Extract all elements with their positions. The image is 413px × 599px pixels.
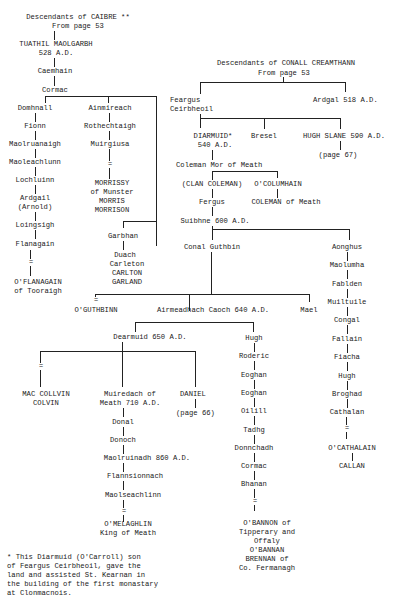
connector	[200, 82, 201, 94]
connector	[212, 171, 213, 180]
donal: Donal	[112, 418, 134, 427]
broghad: Broghad	[332, 390, 362, 399]
maolseachlinn: Maolseachlinn	[105, 491, 161, 500]
connector	[254, 398, 255, 407]
generations-omitted-marker: =	[29, 259, 33, 266]
hugh-aonghus-line: Hugh	[338, 372, 355, 381]
diarmuid: DIARMUID*	[194, 132, 233, 141]
maoleachlunn: Maoleachlunn	[9, 158, 61, 167]
connector	[264, 118, 265, 129]
tuathil-maolgarbh: TUATHIL MAOLGARBH	[19, 40, 92, 49]
connector	[35, 212, 36, 221]
eoghan-2: Eoghan	[241, 389, 267, 398]
connector	[35, 230, 36, 239]
hugh: Hugh	[245, 334, 262, 343]
connector	[347, 325, 348, 334]
muiredach-meath: Meath 710 A.D.	[100, 399, 160, 408]
obannon: O'BANNON of	[243, 519, 290, 528]
connector	[347, 362, 348, 371]
connector	[195, 399, 196, 408]
co-fermanagh: Co. Fermanagh	[239, 564, 295, 573]
connector	[349, 229, 350, 240]
connector	[254, 343, 255, 352]
brennan: BRENNAN of	[245, 555, 288, 564]
page-67-reference: (page 67)	[319, 151, 358, 160]
connector	[123, 221, 124, 228]
connector	[109, 131, 110, 140]
footnote-line-1: * This Diarmuid (O'Carroll) son	[7, 553, 141, 562]
connector	[309, 294, 310, 302]
fiacha: Fiacha	[334, 353, 360, 362]
maolruinadh: Maolruinadh 860 A.D.	[104, 454, 190, 463]
aonghus: Aonghus	[332, 243, 362, 252]
feargus: Feargus	[170, 96, 200, 105]
ocolumhain: O'COLUMHAIN	[254, 180, 301, 189]
roderic: Roderic	[239, 352, 269, 361]
generations-omitted-marker: =	[108, 161, 112, 168]
mac-collvin: MAC COLLVIN	[22, 390, 69, 399]
conall-header: Descendants of CONALL CREAMTHANN	[217, 59, 355, 68]
conal-guthbin: Conal Guthbin	[184, 243, 240, 252]
tuathil-date: 528 A.D.	[39, 49, 74, 58]
connector	[254, 471, 255, 480]
garbhan: Garbhan	[108, 232, 138, 241]
connector	[254, 435, 255, 444]
oilill: Oilill	[241, 407, 267, 416]
eoghan-1: Eoghan	[241, 371, 267, 380]
connector	[54, 58, 55, 67]
morrissy: MORRISSY	[95, 179, 130, 188]
connector	[254, 416, 255, 425]
connector	[254, 453, 255, 462]
oguthbinn: O'GUTHBINN	[74, 306, 117, 315]
morrissy-of-munster: of Munster	[90, 188, 133, 197]
connector	[195, 351, 196, 387]
feargus-ceirbheoil: Ceirbheoil	[170, 105, 213, 114]
connector	[123, 241, 124, 250]
generations-omitted-marker: =	[253, 498, 257, 505]
donoch: Donoch	[110, 436, 136, 445]
ocathalain: O'CATHALAIN	[328, 444, 375, 453]
maolruanaigh: Maolruanaigh	[9, 140, 61, 149]
carleton: Carleton	[110, 260, 145, 269]
coleman-mor: Coleman Mor of Meath	[176, 161, 262, 170]
flannsionnach: Flannsionnach	[107, 472, 163, 481]
connector	[123, 408, 124, 417]
lochluinn: Lochluinn	[16, 176, 55, 185]
connector	[35, 113, 36, 122]
conall-from-page: From page 53	[258, 69, 310, 78]
ardgal: Ardgal 518 A.D.	[313, 96, 378, 105]
connector	[340, 118, 341, 129]
connector	[277, 171, 278, 178]
connector	[135, 322, 136, 332]
page-66-reference: (page 66)	[176, 409, 215, 418]
morris: MORRIS	[99, 197, 125, 206]
connector	[347, 381, 348, 390]
generations-omitted-marker: =	[94, 297, 98, 304]
caibre-from-page: From page 53	[52, 22, 104, 31]
connector	[35, 167, 36, 176]
loingsigh: Loingsigh	[16, 221, 55, 230]
connector	[35, 149, 36, 158]
donnchadh: Donnchadh	[235, 444, 274, 453]
generations-omitted-marker: =	[345, 425, 349, 432]
clan-coleman: (CLAN COLEMAN)	[182, 180, 242, 189]
diarmuid-date: 540 A.D.	[198, 141, 233, 150]
footnote-line-5: at Clonmacnois.	[7, 589, 72, 598]
muirgiusa: Muirgiusa	[91, 140, 130, 149]
muiredach: Muiredach of	[104, 390, 156, 399]
connector	[283, 77, 284, 82]
omelaghlin: O'MELAGHLIN	[104, 520, 151, 529]
fallain: Fallain	[332, 335, 362, 344]
daniel: DANIEL	[180, 390, 206, 399]
connector	[347, 289, 348, 298]
cathalan: Cathalan	[330, 408, 365, 417]
connector	[340, 141, 341, 150]
connector	[212, 171, 278, 172]
maolumha: Maolumha	[330, 261, 365, 270]
connector	[345, 82, 346, 92]
connector	[123, 427, 124, 436]
connector	[123, 481, 124, 490]
coleman-of-meath: COLEMAN of Meath	[251, 198, 320, 207]
connector	[108, 96, 109, 103]
connector	[347, 270, 348, 279]
